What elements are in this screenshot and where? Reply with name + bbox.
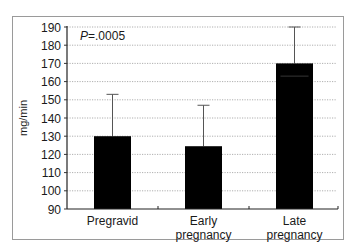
- bar-0: [94, 136, 131, 209]
- x-category-label: Pregravid: [87, 214, 138, 228]
- p-value-annotation: P=.0005: [80, 29, 125, 43]
- y-tick-label: 170: [41, 57, 61, 71]
- bar-2: [276, 63, 313, 209]
- y-axis-ticks: 90100110120130140150160170180190: [41, 21, 67, 217]
- y-tick-label: 90: [48, 203, 62, 217]
- y-axis-label: mg/min: [17, 100, 29, 136]
- x-category-label: Late: [283, 214, 307, 228]
- y-tick-label: 190: [41, 21, 61, 35]
- y-tick-label: 120: [41, 148, 61, 162]
- y-tick-label: 180: [41, 39, 61, 53]
- x-category-label: Early: [190, 214, 217, 228]
- y-tick-label: 100: [41, 184, 61, 198]
- y-tick-label: 140: [41, 112, 61, 126]
- y-tick-label: 110: [42, 166, 61, 180]
- x-category-label: pregnancy: [175, 228, 231, 242]
- bar-1: [185, 146, 222, 209]
- x-category-label: pregnancy: [266, 228, 322, 242]
- y-tick-label: 130: [41, 130, 61, 144]
- bar-chart: 90100110120130140150160170180190 Pregrav…: [0, 0, 355, 247]
- bars: [94, 27, 313, 209]
- y-tick-label: 150: [41, 93, 61, 107]
- y-tick-label: 160: [41, 75, 61, 89]
- x-axis-labels: PregravidEarlypregnancyLatepregnancy: [87, 214, 323, 242]
